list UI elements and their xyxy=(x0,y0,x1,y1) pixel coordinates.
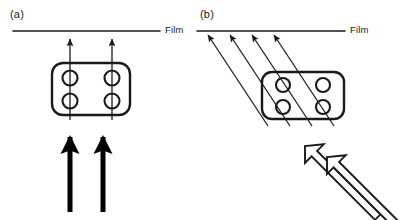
thin-arrow-b-1 xyxy=(208,35,268,126)
panel-label-a: (a) xyxy=(10,8,24,20)
pore-b-4 xyxy=(316,100,330,114)
figure-canvas: (a) (b) Film Film xyxy=(0,0,404,220)
pore-b-1 xyxy=(276,78,290,92)
film-label-b: Film xyxy=(350,24,369,35)
hollow-arrow-group-b xyxy=(305,144,403,220)
film-label-a: Film xyxy=(165,24,184,35)
thin-arrow-b-4 xyxy=(274,35,334,126)
panel-label-b: (b) xyxy=(200,8,214,20)
thin-arrow-group-b xyxy=(208,35,334,126)
thin-arrow-b-2 xyxy=(230,35,290,126)
panel-b-graphics xyxy=(0,0,404,220)
pore-b-2 xyxy=(316,78,330,92)
